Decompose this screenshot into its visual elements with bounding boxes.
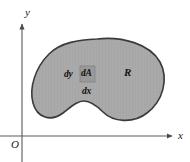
dA-label: dA (81, 69, 92, 79)
x-axis-label: x (178, 130, 183, 141)
diagram-canvas (0, 0, 190, 162)
dy-label: dy (64, 70, 73, 80)
dx-label: dx (82, 87, 91, 97)
region-shape (32, 38, 164, 120)
figure-container: y x O R dy dA dx (0, 0, 190, 162)
origin-label: O (11, 139, 19, 150)
y-axis-label: y (25, 7, 30, 18)
region-label: R (124, 67, 131, 78)
